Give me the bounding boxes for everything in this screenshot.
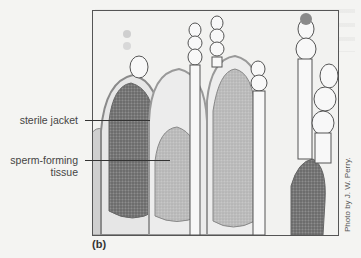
photo-credit: Photo by J. W. Perry. [343,157,352,232]
leader-line-sperm-forming [85,160,170,161]
label-sterile-jacket-text: sterile jacket [20,114,78,126]
label-sterile-jacket: sterile jacket [0,114,78,126]
panel-letter: (b) [92,238,106,250]
label-sperm-forming-line2: tissue [0,166,78,178]
antheridia-illustration [93,11,338,235]
leader-line-sterile-jacket [85,120,150,121]
label-sperm-forming-line1: sperm-forming [0,154,78,166]
label-sperm-forming-tissue: sperm-forming tissue [0,154,78,178]
micrograph-photo [92,10,339,236]
